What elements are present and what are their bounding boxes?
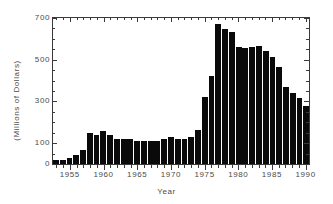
bar — [222, 29, 228, 164]
x-tick — [144, 17, 145, 20]
x-tick — [245, 17, 246, 20]
bar — [127, 139, 133, 164]
x-tick — [97, 17, 98, 20]
y-tick-label: 0 — [45, 159, 50, 168]
bar — [263, 51, 269, 164]
x-tick — [63, 17, 64, 20]
x-tick — [191, 165, 192, 168]
y-tick — [306, 133, 309, 134]
x-tick — [272, 17, 273, 22]
bar — [303, 106, 309, 164]
y-tick — [52, 91, 55, 92]
x-tick — [63, 165, 64, 168]
bar — [175, 139, 181, 164]
y-axis-title: (Millions of Dollars) — [12, 41, 21, 161]
x-tick — [191, 17, 192, 20]
x-tick — [259, 17, 260, 20]
y-tick-label: 500 — [35, 55, 50, 64]
bar — [141, 141, 147, 164]
y-tick — [52, 49, 55, 50]
bar — [188, 137, 194, 164]
x-tick-label: 1980 — [228, 170, 248, 179]
x-tick — [279, 17, 280, 20]
x-tick — [292, 17, 293, 20]
y-tick — [52, 70, 55, 71]
y-tick — [304, 143, 309, 144]
x-axis-title: Year — [0, 187, 333, 196]
bar — [195, 130, 201, 164]
bar — [215, 24, 221, 164]
bar — [182, 139, 188, 164]
y-tick — [52, 81, 55, 82]
x-tick — [178, 165, 179, 168]
y-tick — [52, 28, 55, 29]
x-tick — [211, 165, 212, 168]
bar — [161, 139, 167, 164]
x-tick — [232, 165, 233, 168]
x-tick — [299, 165, 300, 168]
x-tick — [90, 17, 91, 20]
x-tick — [117, 17, 118, 20]
y-tick-label: 100 — [35, 138, 50, 147]
x-tick-label: 1970 — [161, 170, 181, 179]
x-tick — [56, 17, 57, 20]
y-tick — [306, 112, 309, 113]
x-tick — [90, 165, 91, 168]
x-tick — [131, 17, 132, 20]
x-tick — [83, 17, 84, 20]
x-tick — [218, 165, 219, 168]
y-tick — [306, 91, 309, 92]
x-tick — [259, 165, 260, 168]
y-tick — [306, 39, 309, 40]
x-tick — [164, 17, 165, 20]
x-tick — [104, 17, 105, 22]
y-tick — [306, 81, 309, 82]
bar — [94, 135, 100, 164]
bar — [67, 158, 73, 164]
bar — [249, 47, 255, 164]
x-tick — [306, 17, 307, 22]
bar — [202, 97, 208, 164]
bar — [87, 133, 93, 164]
x-tick — [77, 165, 78, 168]
y-tick — [306, 28, 309, 29]
x-tick — [225, 165, 226, 168]
bar — [121, 139, 127, 164]
x-tick — [184, 165, 185, 168]
bar — [256, 46, 262, 164]
bar — [229, 32, 235, 164]
x-tick-label: 1985 — [262, 170, 282, 179]
y-tick-label: 700 — [35, 13, 50, 22]
x-tick — [285, 17, 286, 20]
x-tick — [56, 165, 57, 168]
y-tick — [306, 49, 309, 50]
bar — [283, 87, 289, 164]
bar — [168, 137, 174, 164]
y-tick — [52, 112, 55, 113]
x-tick — [137, 17, 138, 22]
x-tick — [265, 165, 266, 168]
x-tick — [252, 17, 253, 20]
x-tick — [97, 165, 98, 168]
bar — [290, 93, 296, 164]
x-tick — [245, 165, 246, 168]
x-tick — [299, 17, 300, 20]
x-tick — [225, 17, 226, 20]
y-tick — [304, 101, 309, 102]
bar — [60, 160, 66, 164]
x-tick-label: 1975 — [194, 170, 214, 179]
x-tick — [198, 165, 199, 168]
y-tick — [304, 60, 309, 61]
x-tick — [117, 165, 118, 168]
x-tick — [292, 165, 293, 168]
x-tick — [131, 165, 132, 168]
y-tick — [52, 101, 57, 102]
x-tick — [265, 17, 266, 20]
bar — [114, 139, 120, 164]
y-tick — [52, 143, 57, 144]
y-tick — [306, 122, 309, 123]
x-tick-label: 1965 — [127, 170, 147, 179]
bar — [236, 47, 242, 164]
x-tick — [252, 165, 253, 168]
bar — [276, 67, 282, 164]
